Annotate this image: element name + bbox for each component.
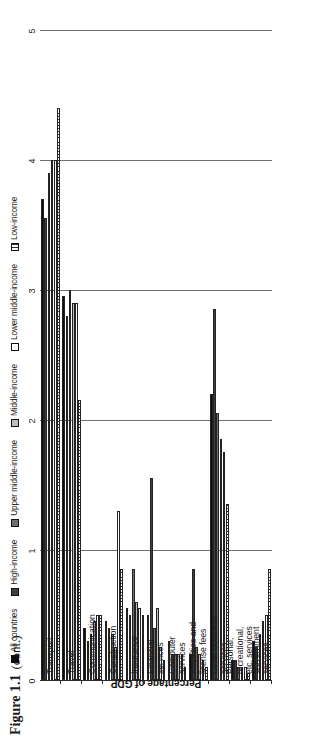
- legend-item-low-income[interactable]: Low-income: [10, 197, 19, 251]
- bar: [163, 661, 166, 681]
- tick-label: 5: [27, 22, 37, 40]
- bar-group: Transport: [40, 31, 61, 680]
- legend-item-all-countries[interactable]: All countries: [10, 609, 19, 663]
- bar: [142, 615, 145, 680]
- category-tick: [102, 680, 103, 684]
- bar: [57, 108, 60, 680]
- category-tick: [144, 680, 145, 684]
- bar: [78, 401, 81, 681]
- bar-group: Computer services: [167, 31, 188, 680]
- tick-label: 3: [27, 282, 37, 300]
- legend-swatch-icon: [11, 419, 19, 427]
- bar-group: Government services: [251, 31, 272, 680]
- bar-group: Insurance: [124, 31, 145, 680]
- legend-label: All countries: [10, 609, 19, 652]
- tick-label: 2: [27, 412, 37, 430]
- figure-number: Figure 1.1: [8, 675, 23, 735]
- legend-item-high-income[interactable]: High-income: [10, 540, 19, 596]
- legend-label: Middle-income: [10, 364, 19, 416]
- bar-group: Other business services: [209, 31, 230, 680]
- category-tick: [187, 680, 188, 684]
- tick-label: 4: [27, 152, 37, 170]
- bar: [99, 615, 102, 680]
- bar-group: Communication: [82, 31, 103, 680]
- plot-area: Percentage of GDP 012345 TransportTravel…: [40, 31, 272, 681]
- figure-page: Figure 1.1(cont.) All countries High-inc…: [0, 0, 321, 741]
- category-tick: [81, 680, 82, 684]
- legend-label: Upper middle-income: [10, 440, 19, 516]
- category-tick: [208, 680, 209, 684]
- bar-group: Travel: [61, 31, 82, 680]
- tick-label: 1: [27, 542, 37, 560]
- legend-swatch-icon: [11, 343, 19, 351]
- legend-label: Lower middle-income: [10, 264, 19, 340]
- legend-label: High-income: [10, 540, 19, 585]
- chart-legend: All countries High-income Upper middle-i…: [10, 197, 19, 663]
- category-tick: [60, 680, 61, 684]
- category-tick: [123, 680, 124, 684]
- bar-group: Financial services: [145, 31, 166, 680]
- bar-group: Personal, recreational, etc. services: [230, 31, 251, 680]
- legend-item-lower-middle-income[interactable]: Lower middle-income: [10, 264, 19, 351]
- bar: [268, 570, 271, 681]
- legend-label: Low-income: [10, 197, 19, 240]
- category-tick: [166, 680, 167, 684]
- legend-swatch-icon: [11, 243, 19, 251]
- legend-swatch-icon: [11, 588, 19, 596]
- legend-swatch-icon: [11, 655, 19, 663]
- legend-swatch-icon: [11, 519, 19, 527]
- bar: [226, 505, 229, 681]
- category-tick: [250, 680, 251, 684]
- category-tick: [271, 680, 272, 684]
- rotated-figure-container: Figure 1.1(cont.) All countries High-inc…: [0, 0, 321, 741]
- category-tick: [229, 680, 230, 684]
- bar: [205, 667, 208, 680]
- bar: [120, 570, 123, 681]
- bar-group: Construction: [103, 31, 124, 680]
- legend-item-middle-income[interactable]: Middle-income: [10, 364, 19, 427]
- legend-item-upper-middle-income[interactable]: Upper middle-income: [10, 440, 19, 527]
- bar-group: Royalties and license fees: [188, 31, 209, 680]
- bar-groups: TransportTravelCommunicationConstruction…: [40, 31, 272, 680]
- bar: [184, 667, 187, 680]
- tick-label: 0: [27, 672, 37, 690]
